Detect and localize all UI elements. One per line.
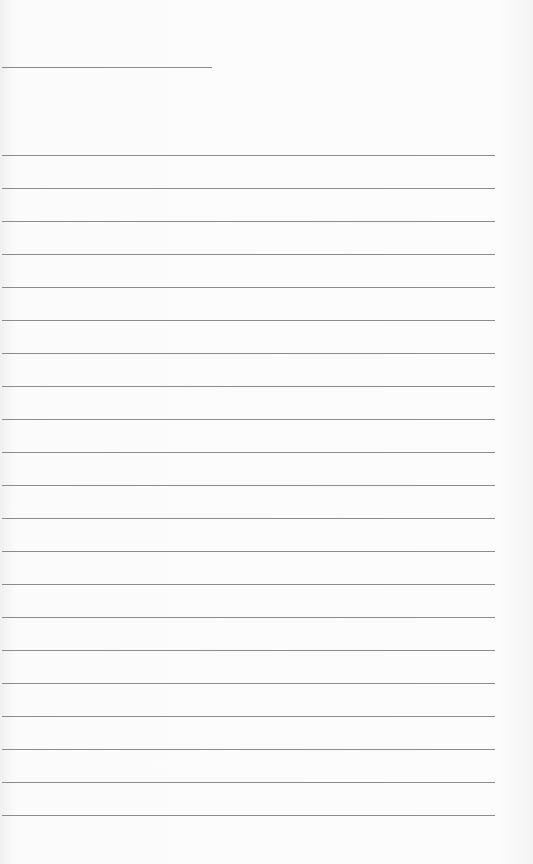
header-name-line (2, 67, 212, 68)
ruled-line (2, 320, 495, 321)
ruled-line (2, 551, 495, 552)
ruled-line (2, 221, 495, 222)
ruled-line (2, 452, 495, 453)
ruled-line (2, 287, 495, 288)
ruled-line (2, 419, 495, 420)
ruled-line (2, 749, 495, 750)
ruled-line (2, 254, 495, 255)
ruled-line (2, 584, 495, 585)
ruled-line (2, 683, 495, 684)
ruled-line (2, 815, 495, 816)
ruled-line (2, 650, 495, 651)
ruled-line (2, 617, 495, 618)
ruled-line (2, 386, 495, 387)
ruled-line (2, 485, 495, 486)
lined-paper-page (0, 0, 533, 864)
ruled-line (2, 716, 495, 717)
ruled-line (2, 518, 495, 519)
ruled-line (2, 155, 495, 156)
ruled-line (2, 188, 495, 189)
ruled-line (2, 782, 495, 783)
ruled-line (2, 353, 495, 354)
